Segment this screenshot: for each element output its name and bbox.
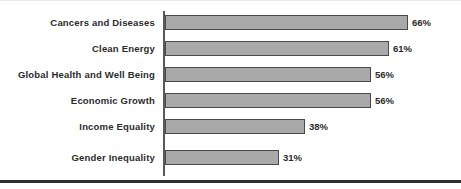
bar-chart-figure: Cancers and Diseases 66% Clean Energy 61… (0, 0, 461, 189)
bar-category-label: Clean Energy (0, 41, 155, 57)
bar-row: Income Equality 38% (0, 119, 461, 145)
bar-rect (165, 41, 389, 56)
bar-category-label: Economic Growth (0, 93, 155, 109)
bar-row: Clean Energy 61% (0, 41, 461, 67)
bar-rect (165, 15, 408, 30)
bar-category-label: Gender Inequality (0, 150, 155, 166)
bar-row: Cancers and Diseases 66% (0, 15, 461, 41)
plot-area: Cancers and Diseases 66% Clean Energy 61… (0, 0, 461, 178)
bar-value-label: 61% (393, 41, 412, 57)
bar-rect (165, 93, 371, 108)
bar-value-label: 56% (375, 67, 394, 83)
bar-row: Gender Inequality 31% (0, 150, 461, 176)
bar-value-label: 38% (309, 119, 328, 135)
bar-row: Global Health and Well Being 56% (0, 67, 461, 93)
bar-rect (165, 67, 371, 82)
bar-value-label: 66% (412, 15, 431, 31)
bar-category-label: Global Health and Well Being (0, 67, 155, 83)
bottom-divider (0, 180, 461, 183)
bar-value-label: 56% (375, 93, 394, 109)
bar-rect (165, 150, 279, 165)
bar-category-label: Income Equality (0, 119, 155, 135)
bar-rect (165, 119, 305, 134)
bar-category-label: Cancers and Diseases (0, 15, 155, 31)
bar-row: Economic Growth 56% (0, 93, 461, 119)
bar-value-label: 31% (283, 150, 302, 166)
